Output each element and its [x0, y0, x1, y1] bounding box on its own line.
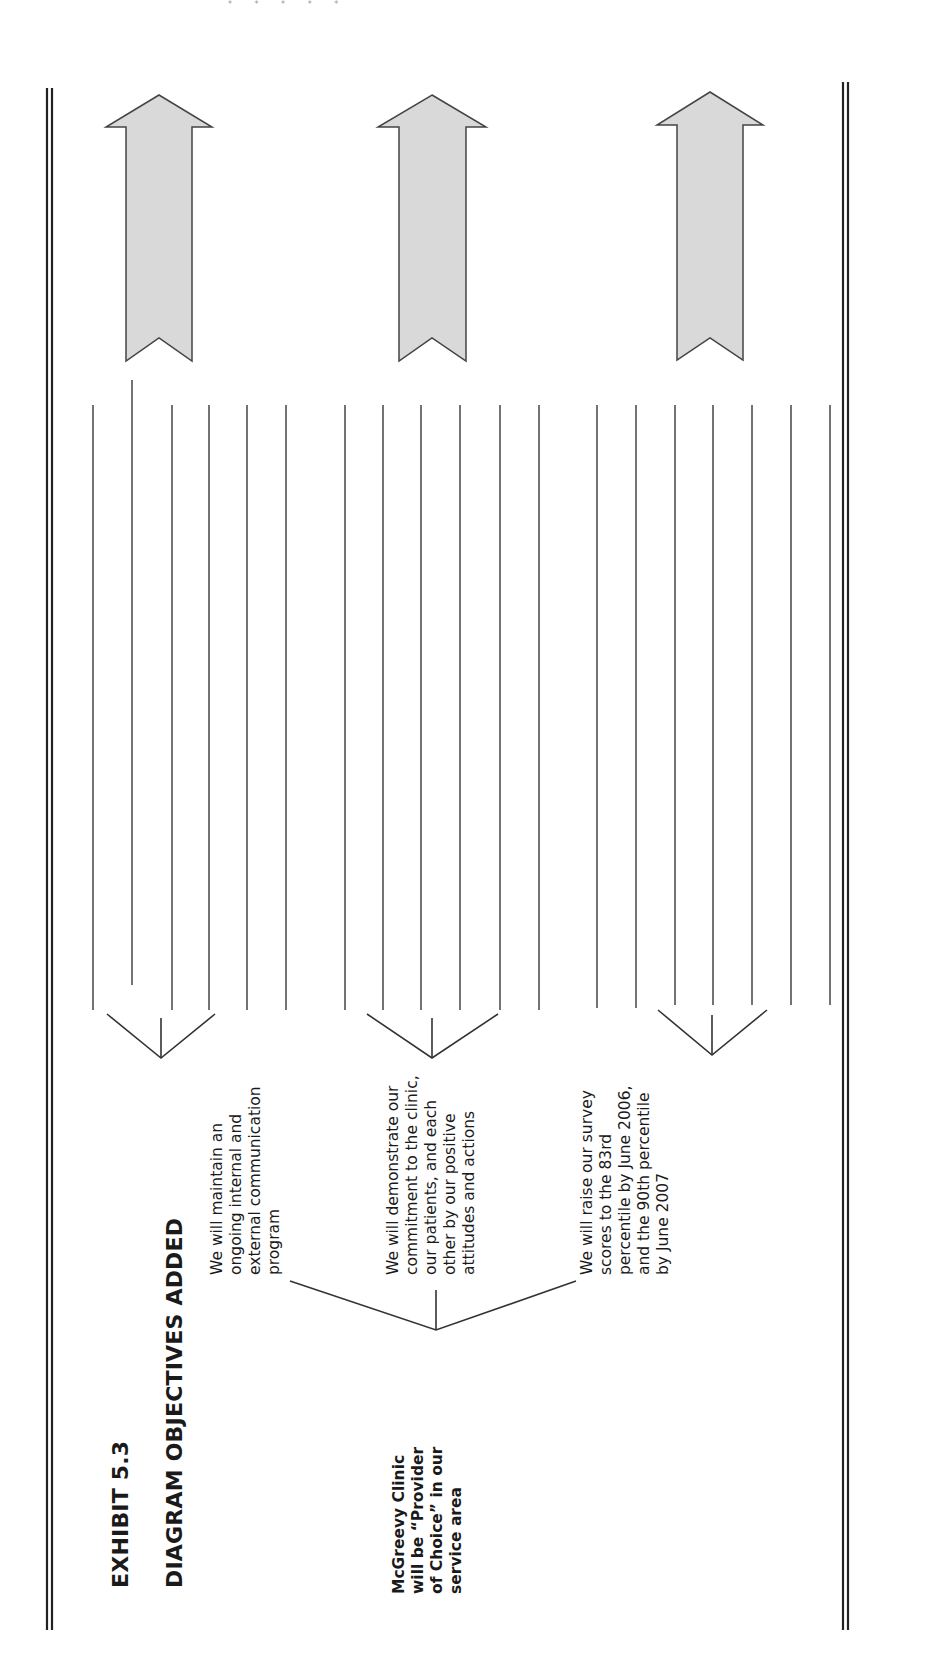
objective-1: We will maintain an ongoing internal and… [208, 1086, 284, 1275]
exhibit-number: EXHIBIT 5.3 [107, 1218, 134, 1588]
objective-3-fork [658, 1010, 767, 1055]
objective-3: We will raise our survey scores to the 8… [578, 1086, 673, 1275]
arrow-2 [378, 95, 486, 361]
objective-2-fork [367, 1014, 498, 1058]
blank-lines [93, 380, 830, 1010]
exhibit-title: DIAGRAM OBJECTIVES ADDED [161, 1218, 188, 1588]
exhibit-header: EXHIBIT 5.3 DIAGRAM OBJECTIVES ADDED [80, 1218, 215, 1588]
arrow-1 [106, 95, 212, 361]
root-connector [290, 1281, 576, 1330]
objective-2: We will demonstrate our commitment to th… [384, 1075, 479, 1275]
arrow-3 [657, 92, 763, 360]
root-node: McGreevy Clinic will be “Provider of Cho… [390, 1446, 466, 1594]
objective-1-fork [107, 1014, 215, 1058]
